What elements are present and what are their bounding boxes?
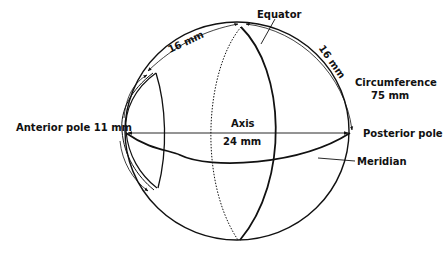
anterior-pole-label: Anterior pole 11 mm	[16, 122, 132, 133]
equator-label: Equator	[257, 9, 302, 20]
equator-leader	[261, 19, 275, 44]
circumference-title: Circumference	[355, 77, 437, 88]
arc-label-top-left: 16 mm	[166, 29, 205, 55]
equator-front-line	[240, 27, 276, 240]
arc-label-top-right: 16 mm	[317, 43, 348, 81]
meridian-label: Meridian	[357, 156, 407, 167]
equator-back-line	[211, 27, 241, 240]
arc-arrow-cornea-bottom	[120, 141, 148, 191]
axis-value: 24 mm	[223, 136, 261, 147]
eyeball-diagram: Equator 16 mm 16 mm Circumference 75 mm …	[0, 0, 446, 253]
posterior-pole-label: Posterior pole	[363, 128, 443, 139]
axis-title: Axis	[231, 118, 255, 129]
globe-outline	[125, 22, 349, 240]
meridian-leader	[318, 158, 355, 161]
circumference-value: 75 mm	[371, 90, 409, 101]
